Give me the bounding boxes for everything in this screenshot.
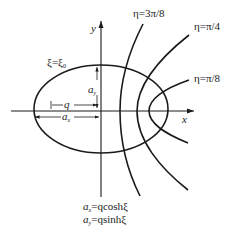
eta-3pi8-label: η=3π/8 [133,7,165,19]
equation-ax: ax=qcoshξ [83,200,128,213]
equation-ay: ay=qsinhξ [83,213,126,226]
q-label: q [64,98,70,110]
eta-pi8-label: η=π/8 [194,72,221,84]
ellipse-label: ξ=ξ0 [47,56,66,69]
eta-pi4-label: η=π/4 [194,20,221,32]
elliptic-coordinates-diagram: q ax ay x y ξ=ξ0 η=3π/8 η=π/4 η=π/8 ax=q… [0,0,233,238]
x-axis-label: x [181,113,187,125]
ax-label: ax [62,110,71,123]
y-axis-label: y [90,22,96,34]
ay-label: ay [88,83,97,96]
hyperbola-eta-3pi8 [120,24,143,196]
